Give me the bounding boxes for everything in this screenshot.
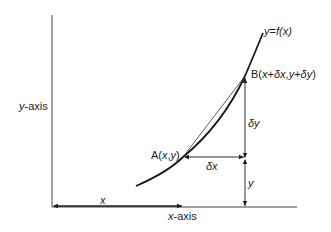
point-a-close: ) (176, 149, 180, 161)
point-b-close: ) (312, 68, 316, 80)
point-b-dy: δy (301, 68, 313, 80)
curve-f-of-x (136, 33, 263, 186)
chord-ab (183, 76, 245, 157)
curve-label-arg: (x) (279, 25, 292, 37)
x-axis-label-suffix: -axis (174, 210, 197, 222)
y-axis-label-suffix: -axis (25, 100, 48, 112)
point-b-label: B(x+δx,y+δy) (251, 69, 316, 80)
point-b-dx: δx (274, 68, 286, 80)
curve-label: y=f(x) (264, 26, 292, 37)
dx-label: δx (206, 161, 218, 172)
y-height-label: y (248, 178, 254, 189)
dy-label: δy (248, 118, 260, 129)
point-a-label: A(x,y) (151, 150, 180, 161)
y-axis-label: y-axis (19, 101, 48, 112)
x-axis-label: x-axis (168, 211, 197, 222)
x-distance-label: x (100, 195, 106, 206)
